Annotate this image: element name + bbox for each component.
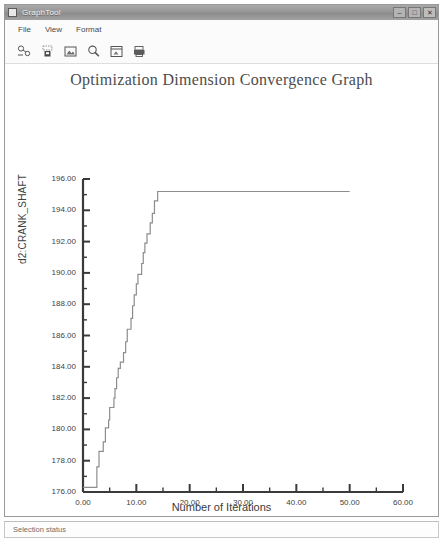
x-tick-label: 40.00 xyxy=(276,498,316,507)
close-icon: ✕ xyxy=(424,8,435,17)
fit-window-button[interactable] xyxy=(108,43,125,59)
close-button[interactable]: ✕ xyxy=(423,7,436,18)
window-controls: – □ ✕ xyxy=(393,7,436,18)
maximize-button[interactable]: □ xyxy=(408,7,421,18)
menu-item-view[interactable]: View xyxy=(45,25,62,34)
status-bar: Selection status xyxy=(4,521,439,538)
picture-icon xyxy=(63,44,78,58)
y-tick-label: 180.00 xyxy=(52,424,76,433)
title-bar[interactable]: GraphTool – □ ✕ xyxy=(5,5,438,20)
y-tick-label: 192.00 xyxy=(52,237,76,246)
window-icon xyxy=(8,8,17,17)
application-window: GraphTool – □ ✕ File View Format xyxy=(4,4,439,517)
chart-canvas[interactable]: Optimization Dimension Convergence Graph… xyxy=(5,64,438,516)
print-icon xyxy=(132,44,147,58)
fit-window-icon xyxy=(109,44,124,58)
plot-svg xyxy=(5,64,438,516)
menu-item-format[interactable]: Format xyxy=(76,25,101,34)
export-image-button[interactable] xyxy=(62,43,79,59)
y-tick-label: 196.00 xyxy=(52,174,76,183)
open-graph-icon xyxy=(17,44,32,58)
toolbar xyxy=(5,39,438,64)
y-tick-label: 178.00 xyxy=(52,456,76,465)
window-title: GraphTool xyxy=(22,8,393,17)
x-tick-label: 30.00 xyxy=(223,498,263,507)
zoom-icon xyxy=(86,44,101,58)
zoom-button[interactable] xyxy=(85,43,102,59)
status-text: Selection status xyxy=(13,525,66,534)
x-tick-label: 60.00 xyxy=(383,498,423,507)
open-graph-button[interactable] xyxy=(16,43,33,59)
maximize-icon: □ xyxy=(409,8,420,17)
menu-item-file[interactable]: File xyxy=(18,25,31,34)
y-tick-label: 190.00 xyxy=(52,268,76,277)
minimize-button[interactable]: – xyxy=(393,7,406,18)
print-button[interactable] xyxy=(131,43,148,59)
x-tick-label: 20.00 xyxy=(170,498,210,507)
x-tick-label: 50.00 xyxy=(330,498,370,507)
save-graph-icon xyxy=(40,44,55,58)
y-tick-label: 194.00 xyxy=(52,205,76,214)
menu-bar: File View Format xyxy=(5,20,438,39)
x-tick-label: 0.00 xyxy=(63,498,103,507)
y-tick-label: 176.00 xyxy=(52,487,76,496)
minimize-icon: – xyxy=(394,8,405,17)
y-tick-label: 184.00 xyxy=(52,362,76,371)
save-graph-button[interactable] xyxy=(39,43,56,59)
y-tick-label: 186.00 xyxy=(52,331,76,340)
y-tick-label: 188.00 xyxy=(52,299,76,308)
y-tick-label: 182.00 xyxy=(52,393,76,402)
x-tick-label: 10.00 xyxy=(116,498,156,507)
